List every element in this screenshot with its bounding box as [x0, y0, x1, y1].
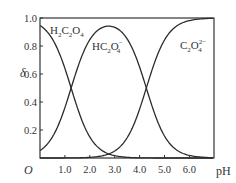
x-tick-label: 4.0	[133, 164, 146, 175]
distribution-chart: 0.20.40.60.81.0 1.02.03.04.05.06.0 δ O p…	[0, 0, 236, 183]
x-axis-title: pH	[216, 164, 231, 178]
y-tick-label: 0.8	[24, 41, 37, 52]
y-tick-label: 0.2	[24, 125, 37, 136]
y-tick-label: 0.6	[24, 69, 37, 80]
x-tick-label: 6.0	[183, 164, 196, 175]
label-c2o4: C2O2−4	[180, 38, 206, 54]
x-tick-label: 5.0	[158, 164, 171, 175]
y-tick-label: 1.0	[24, 13, 37, 24]
label-h2c2o4: H2C2O4	[50, 24, 84, 39]
label-hc2o4: HC2O−4	[92, 39, 123, 55]
x-tick-label: 1.0	[58, 164, 71, 175]
y-axis-title: δ	[20, 66, 26, 80]
x-tick-label: 2.0	[83, 164, 96, 175]
x-tick-label: 3.0	[108, 164, 121, 175]
origin-label: O	[24, 163, 33, 177]
y-tick-label: 0.4	[24, 97, 38, 108]
